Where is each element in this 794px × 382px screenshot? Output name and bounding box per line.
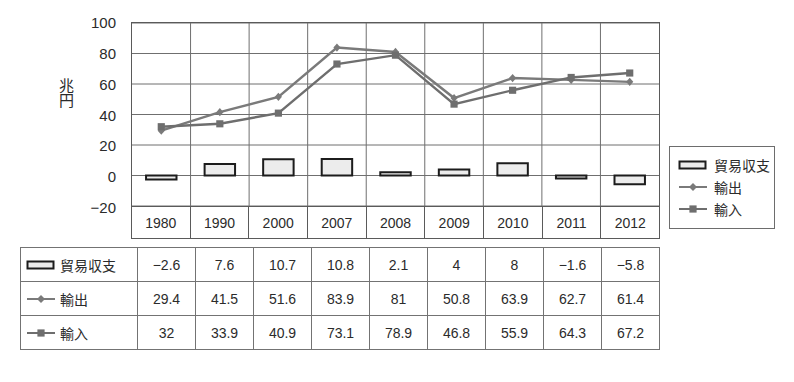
plot-canvas [132,23,659,206]
bar-trade-balance [380,172,410,175]
legend-item[interactable]: 輸出 [678,176,767,198]
marker-square [392,52,399,59]
legend-item-label: 輸出 [714,177,742,197]
y-axis-tick: 60 [99,75,116,92]
table-cell: −2.6 [138,248,196,282]
legend-square-line-icon [678,202,708,216]
table-cell: 64.3 [544,316,602,350]
bar-trade-balance [497,163,527,175]
table-cell: 10.7 [254,248,312,282]
table-row-header: 輸出 [21,282,138,316]
table-cell: 83.9 [312,282,370,316]
table-cell: 46.8 [428,316,486,350]
table-cell: 73.1 [312,316,370,350]
legend-item-label: 貿易収支 [714,155,770,175]
y-axis-tick: 0 [108,168,116,185]
plot-area [131,22,660,207]
legend-diamond-line-icon [26,292,56,306]
table-cell: 55.9 [486,316,544,350]
table-cell: 4 [428,248,486,282]
x-axis-tick: 2007 [308,207,367,238]
row-header-label: 貿易収支 [60,255,116,275]
table-cell: 2.1 [370,248,428,282]
table-cell: 63.9 [486,282,544,316]
x-axis-tick: 1990 [191,207,250,238]
square-marker-icon [689,205,696,212]
bar-swatch [680,162,706,169]
x-axis-tick: 2000 [249,207,308,238]
table-cell: 29.4 [138,282,196,316]
legend-swatch [678,179,708,195]
marker-square [333,60,340,67]
y-axis-tick: 40 [99,106,116,123]
diamond-marker-icon [689,183,697,191]
marker-square [216,120,223,127]
x-axis-tick-labels: 198019902000200720082009201020112012 [131,207,660,239]
legend-bar-icon [678,158,708,172]
row-header-content: 輸出 [26,289,137,309]
y-axis-tick: −20 [91,199,116,216]
legend-item[interactable]: 貿易収支 [678,154,767,176]
legend-swatch [678,157,708,173]
x-axis-tick: 2012 [601,207,659,238]
table-cell: 7.6 [196,248,254,282]
table-cell: 50.8 [428,282,486,316]
x-axis-tick: 2008 [367,207,426,238]
y-axis-tick: 80 [99,44,116,61]
table-row: 輸入3233.940.973.178.946.855.964.367.2 [21,316,660,350]
row-header-content: 輸入 [26,323,137,343]
square-marker-icon [37,329,44,336]
table-cell: 62.7 [544,282,602,316]
x-axis-tick: 2010 [484,207,543,238]
table-cell: 61.4 [602,282,660,316]
legend-swatch [678,201,708,217]
table-cell: −5.8 [602,248,660,282]
bar-trade-balance [439,169,469,175]
line-exports [161,48,629,131]
row-header-label: 輸出 [60,289,88,309]
x-axis-tick: 1980 [132,207,191,238]
legend-square-line-icon [26,326,56,340]
table-cell: 78.9 [370,316,428,350]
bar-trade-balance [556,176,586,179]
line-imports [161,55,629,127]
bar-trade-balance [263,159,293,175]
marker-square [626,69,633,76]
y-axis-tick: 20 [99,137,116,154]
x-axis-tick: 2009 [425,207,484,238]
chart-legend: 貿易収支輸出輸入 [669,146,775,229]
marker-diamond [626,78,633,86]
y-axis-tick: 100 [91,14,116,31]
bar-swatch [28,261,54,268]
bar-trade-balance [322,159,352,175]
legend-bar-icon [26,258,56,272]
table-row-header: 貿易収支 [21,248,138,282]
table-cell: 41.5 [196,282,254,316]
bar-trade-balance [205,164,235,176]
diamond-marker-icon [37,295,45,303]
marker-diamond [509,74,516,82]
table-row: 貿易収支−2.67.610.710.82.148−1.6−5.8 [21,248,660,282]
legend-diamond-line-icon [678,180,708,194]
y-axis-tick-labels: 100806040200−20 [70,0,122,230]
table-cell: 81 [370,282,428,316]
bar-trade-balance [614,176,644,185]
marker-square [568,74,575,81]
table-cell: −1.6 [544,248,602,282]
legend-item-label: 輸入 [714,199,742,219]
table-cell: 8 [486,248,544,282]
table-cell: 10.8 [312,248,370,282]
marker-square [158,123,165,130]
table-cell: 51.6 [254,282,312,316]
row-header-content: 貿易収支 [26,255,137,275]
table-row-header: 輸入 [21,316,138,350]
marker-square [275,110,282,117]
legend-item[interactable]: 輸入 [678,198,767,220]
table-cell: 40.9 [254,316,312,350]
row-header-label: 輸入 [60,323,88,343]
table-row: 輸出29.441.551.683.98150.863.962.761.4 [21,282,660,316]
table-cell: 67.2 [602,316,660,350]
x-axis-tick: 2011 [543,207,602,238]
marker-diamond [216,108,223,116]
bar-trade-balance [146,176,176,180]
